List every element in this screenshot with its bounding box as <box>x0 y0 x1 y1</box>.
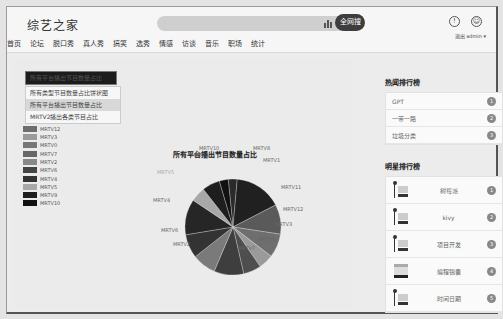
rank-badge: 1 <box>487 97 496 106</box>
pie-label: MRTV8 <box>253 145 270 151</box>
nav-item-home[interactable]: 首页 <box>7 38 21 48</box>
rank-badge: 4 <box>487 267 496 276</box>
clock-icon[interactable]: ! <box>449 16 460 27</box>
rank-badge: 3 <box>487 131 496 140</box>
legend-item[interactable]: MRTV3 <box>23 133 60 141</box>
chart-panel: 所有平台播出节目数量占比 所有类型节目数量占比饼状图 所有平台播出节目数量占比 … <box>13 59 353 309</box>
pie-label: MRTV6 <box>161 227 178 233</box>
thumbnail-icon <box>392 261 410 281</box>
legend-item[interactable]: MRTV10 <box>23 200 60 208</box>
hot-item[interactable]: 垃圾分类3 <box>386 127 502 144</box>
rank-badge: 1 <box>487 186 496 195</box>
hot-item[interactable]: 一带一路2 <box>386 110 502 127</box>
star-item[interactable]: 时间日期5 <box>386 285 502 312</box>
username[interactable]: admin ▾ <box>466 33 486 39</box>
nav-item-music[interactable]: 音乐 <box>205 38 219 48</box>
thumbnail-icon <box>392 234 410 254</box>
thumbnail-icon <box>392 207 410 227</box>
pie-label: MRTV10 <box>199 145 219 151</box>
menu-item-platform-ratio[interactable]: 所有平台播出节目数量占比 <box>26 99 120 111</box>
user-area: ! ☺ 退出 admin ▾ <box>446 16 486 42</box>
nav-item-stats[interactable]: 统计 <box>251 38 265 48</box>
nav-item-comedy[interactable]: 搞笑 <box>113 38 127 48</box>
nav-item-career[interactable]: 职场 <box>228 38 242 48</box>
sidebar: 热闻排行榜 GPT1 一带一路2 垃圾分类3 明星排行榜 树莓派1 kivy2 … <box>385 77 503 313</box>
pie-label: MRTV5 <box>157 169 174 175</box>
pie-label: MRTV4 <box>153 197 170 203</box>
nav-item-reality[interactable]: 真人秀 <box>83 38 104 48</box>
legend-item[interactable]: MRTV6 <box>23 166 60 174</box>
nav-item-emotion[interactable]: 情感 <box>159 38 173 48</box>
legend-item[interactable]: MRTV0 <box>23 142 60 150</box>
chart-select-button[interactable]: 所有平台播出节目数量占比 <box>25 71 117 85</box>
search-input[interactable]: 全网搜 <box>157 16 362 31</box>
pie-chart[interactable] <box>183 177 283 277</box>
pie-label: MRTV11 <box>281 184 301 190</box>
chart-select-menu: 所有类型节目数量占比饼状图 所有平台播出节目数量占比 MRTV2播出各类节目占比 <box>25 86 121 124</box>
legend-item[interactable]: MRTV12 <box>23 125 60 133</box>
nav-item-forum[interactable]: 论坛 <box>30 38 44 48</box>
menu-item-type-ratio[interactable]: 所有类型节目数量占比饼状图 <box>26 87 120 99</box>
chart-bars-icon[interactable] <box>323 19 333 28</box>
header: 综艺之家 全网搜 首页 论坛 脱口秀 真人秀 搞笑 选秀 情感 访谈 音乐 职场… <box>7 7 496 53</box>
user-menu[interactable]: 退出 admin ▾ <box>455 32 486 39</box>
hot-item[interactable]: GPT1 <box>386 93 502 110</box>
legend-item[interactable]: MRTV2 <box>23 158 60 166</box>
legend-item[interactable]: MRTV7 <box>23 150 60 158</box>
star-item[interactable]: kivy2 <box>386 204 502 231</box>
thumbnail-icon <box>392 288 410 308</box>
thumbnail-icon <box>392 180 410 200</box>
pie-label: MRTV6 <box>258 236 275 242</box>
legend-item[interactable]: MRTV9 <box>23 191 60 199</box>
rank-badge: 5 <box>487 294 496 303</box>
star-item[interactable]: 项目开发3 <box>386 231 502 258</box>
nav-item-talent[interactable]: 选秀 <box>136 38 150 48</box>
nav-item-talkshow[interactable]: 脱口秀 <box>53 38 74 48</box>
browser-frame: 综艺之家 全网搜 首页 论坛 脱口秀 真人秀 搞笑 选秀 情感 访谈 音乐 职场… <box>6 6 498 314</box>
rank-badge: 3 <box>487 240 496 249</box>
hot-ranking-list: GPT1 一带一路2 垃圾分类3 <box>385 92 503 145</box>
rank-badge: 2 <box>487 114 496 123</box>
logout-link[interactable]: 退出 <box>455 33 465 39</box>
legend-item[interactable]: MRTV4 <box>23 175 60 183</box>
star-ranking-list: 树莓派1 kivy2 项目开发3 编程锦囊4 时间日期5 <box>385 176 503 313</box>
chart-legend: MRTV12 MRTV3 MRTV0 MRTV7 MRTV2 MRTV6 MRT… <box>23 125 60 208</box>
pie-label: MRTV2 <box>173 241 190 247</box>
pie-label: MRTV9 <box>191 152 208 158</box>
pie-label: MRTV12 <box>283 206 303 212</box>
pie-label: MRTV3 <box>275 221 292 227</box>
rank-badge: 2 <box>487 213 496 222</box>
nav-item-interview[interactable]: 访谈 <box>182 38 196 48</box>
legend-item[interactable]: MRTV5 <box>23 183 60 191</box>
menu-item-mrtv2-ratio[interactable]: MRTV2播出各类节目占比 <box>26 111 120 123</box>
site-logo[interactable]: 综艺之家 <box>27 16 79 33</box>
main-nav: 首页 论坛 脱口秀 真人秀 搞笑 选秀 情感 访谈 音乐 职场 统计 <box>7 38 274 48</box>
pie-label: MRTV1 <box>263 157 280 163</box>
star-ranking-title: 明星排行榜 <box>385 161 503 171</box>
search-button[interactable]: 全网搜 <box>335 14 365 31</box>
star-item[interactable]: 编程锦囊4 <box>386 258 502 285</box>
hot-ranking-title: 热闻排行榜 <box>385 77 503 87</box>
star-item[interactable]: 树莓派1 <box>386 177 502 204</box>
pie-label: MRTV7 <box>238 245 255 251</box>
user-icon[interactable]: ☺ <box>471 16 482 27</box>
